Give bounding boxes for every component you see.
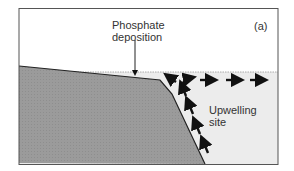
phosphate-label-line2: deposition: [112, 31, 162, 43]
panel-label: (a): [254, 20, 267, 32]
upwelling-label-line2: site: [209, 116, 226, 128]
phosphate-label-line1: Phosphate: [112, 19, 165, 31]
upwelling-label-line1: Upwelling: [209, 104, 257, 116]
